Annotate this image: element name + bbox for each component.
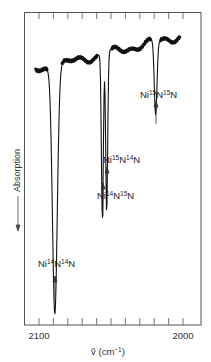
absorption-arrow-icon: [16, 196, 20, 231]
spectrum-trace: [35, 36, 180, 313]
peak-label-ni15n15n: Ni15N15N: [140, 89, 177, 100]
peak-label-ni14n14n: Ni14N14N: [38, 258, 75, 269]
peak-label-ni14n15n: Ni14N15N: [97, 190, 134, 201]
peak-label-ni15n14n: Ni15N14N: [103, 154, 140, 165]
x-tick-label-2100: 2100: [28, 330, 49, 341]
x-axis-label: ṽ (cm−1): [91, 346, 125, 357]
x-tick-label-2000: 2000: [172, 330, 193, 341]
plot-frame: [25, 13, 202, 326]
y-axis-label: Absorption: [12, 149, 22, 192]
axis-ticks: [39, 12, 183, 325]
spectrum-chart: [0, 0, 211, 362]
